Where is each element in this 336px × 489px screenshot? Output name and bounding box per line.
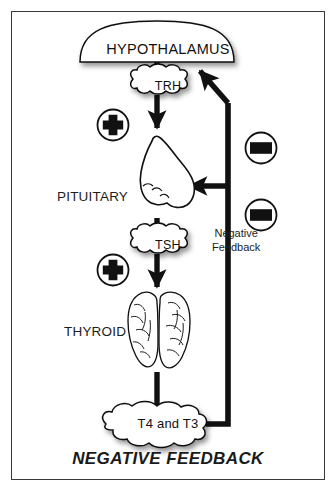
- node-hypothalamus[interactable]: [80, 21, 234, 62]
- feedback-arrow-to-hypothalamus: [200, 71, 228, 103]
- annotation-line-2: Feedback: [212, 241, 260, 255]
- annotation-negative-feedback: Negative Feedback: [212, 227, 260, 255]
- node-pituitary[interactable]: [140, 136, 194, 207]
- sign-plus-lower[interactable]: [98, 255, 129, 286]
- feedback-pathway-trunk: [206, 103, 228, 424]
- sign-plus-upper[interactable]: [98, 110, 129, 141]
- annotation-line-1: Negative: [212, 227, 260, 241]
- node-thyroid[interactable]: [128, 292, 190, 368]
- sign-minus-lower[interactable]: [246, 200, 277, 231]
- node-trh[interactable]: [131, 64, 188, 94]
- figure-title: NEGATIVE FEEDBACK: [0, 449, 336, 469]
- sign-minus-upper[interactable]: [246, 133, 277, 164]
- node-hormones-t4-t3[interactable]: [103, 402, 207, 448]
- node-label-thyroid: THYROID: [64, 324, 126, 339]
- figure-canvas: HYPOTHALAMUS TRH TSH T4 and T3 PITUITARY…: [0, 0, 336, 489]
- node-label-pituitary: PITUITARY: [57, 189, 128, 204]
- node-tsh[interactable]: [131, 223, 188, 253]
- diagram-artwork: [0, 0, 336, 489]
